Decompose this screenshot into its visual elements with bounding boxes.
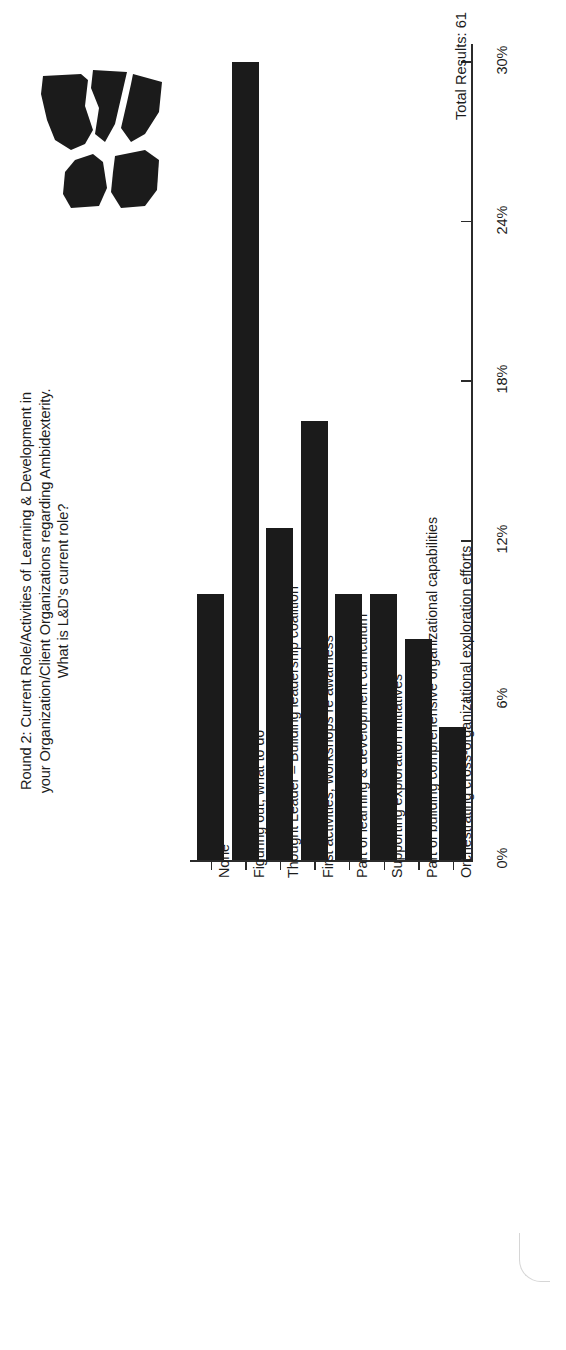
category-tick-7	[453, 860, 455, 870]
value-tick-label: 24%	[494, 197, 510, 243]
category-label-1: Figuring out, what to do	[251, 730, 267, 878]
value-tick-label: 0%	[494, 835, 510, 881]
value-tick-label: 6%	[494, 675, 510, 721]
category-tick-6	[418, 860, 420, 870]
category-tick-4	[349, 860, 351, 870]
category-tick-1	[245, 860, 247, 870]
value-tick-24pct	[461, 221, 472, 223]
category-tick-2	[280, 860, 282, 870]
category-tick-3	[314, 860, 316, 870]
category-tick-0	[211, 860, 213, 870]
bar-chart: 0%6%12%18%24%30% NoneFiguring out, what …	[0, 0, 566, 1350]
category-label-7: Orchestrating cross-organizational explo…	[458, 546, 474, 878]
category-tick-5	[384, 860, 386, 870]
category-label-2: Thought Leader – Building leadership coa…	[285, 586, 301, 878]
value-tick-18pct	[461, 380, 472, 382]
total-results-label: Total Results: 61	[453, 12, 469, 120]
category-label-3: First activities, workshops re awarness	[320, 635, 336, 878]
page-curl-artifact	[519, 1233, 550, 1282]
category-label-0: None	[216, 844, 232, 878]
category-label-4: Part of learning & development curriculu…	[354, 614, 370, 878]
value-tick-label: 12%	[494, 516, 510, 562]
bar-none	[197, 594, 224, 860]
value-tick-label: 30%	[494, 37, 510, 83]
value-tick-12pct	[461, 540, 472, 542]
category-label-6: Part of building comprehensive organizat…	[424, 517, 440, 878]
value-tick-label: 18%	[494, 356, 510, 402]
category-label-5: Supporting exploration initiatives	[389, 674, 405, 878]
